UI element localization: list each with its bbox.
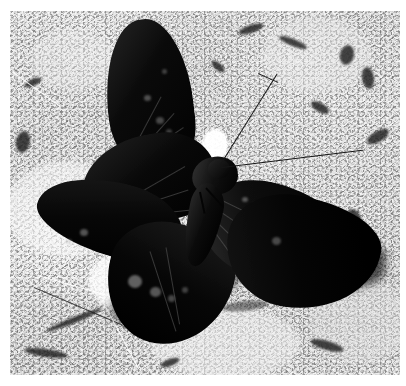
antenna-upper bbox=[219, 74, 277, 166]
wing-spot bbox=[162, 69, 167, 74]
wing-spot bbox=[80, 229, 88, 236]
butterfly bbox=[10, 11, 400, 375]
wing-spot bbox=[128, 275, 142, 288]
wing-spot bbox=[242, 197, 248, 202]
wing-spot bbox=[156, 117, 164, 124]
wing-spot bbox=[182, 287, 188, 293]
image-canvas bbox=[0, 0, 406, 386]
head bbox=[208, 159, 230, 179]
antenna-lower bbox=[222, 150, 363, 169]
wing-spot bbox=[66, 239, 72, 244]
wing-spot bbox=[150, 287, 161, 297]
wing-spot bbox=[272, 237, 281, 245]
photograph bbox=[10, 11, 400, 375]
wing-spot bbox=[144, 95, 151, 101]
